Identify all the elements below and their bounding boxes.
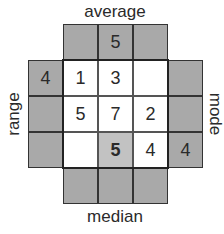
average-cell[interactable] xyxy=(133,24,168,60)
range-label: range xyxy=(5,92,22,135)
mode-cell[interactable] xyxy=(168,60,203,96)
grid-cell[interactable] xyxy=(133,60,168,96)
median-cell[interactable] xyxy=(98,168,133,204)
median-cell[interactable] xyxy=(133,168,168,204)
average-cell[interactable]: 5 xyxy=(98,24,133,60)
grid-cell[interactable]: 3 xyxy=(98,60,133,96)
range-cell[interactable]: 4 xyxy=(28,60,63,96)
median-cell[interactable] xyxy=(63,168,98,204)
mode-cell[interactable] xyxy=(168,96,203,132)
range-cell[interactable] xyxy=(28,96,63,132)
mode-cell[interactable]: 4 xyxy=(168,132,203,168)
highlighted-grid-cell[interactable]: 5 xyxy=(98,132,133,168)
grid-cell[interactable]: 1 xyxy=(63,60,98,96)
mode-label: mode xyxy=(207,93,224,136)
range-cell[interactable] xyxy=(28,132,63,168)
grid-cell[interactable] xyxy=(63,132,98,168)
grid-cell[interactable]: 7 xyxy=(98,96,133,132)
grid-cell[interactable]: 4 xyxy=(133,132,168,168)
average-label: average xyxy=(0,3,224,20)
grid-cell[interactable]: 5 xyxy=(63,96,98,132)
average-cell[interactable] xyxy=(63,24,98,60)
median-label: median xyxy=(0,208,224,225)
grid-cell[interactable]: 2 xyxy=(133,96,168,132)
